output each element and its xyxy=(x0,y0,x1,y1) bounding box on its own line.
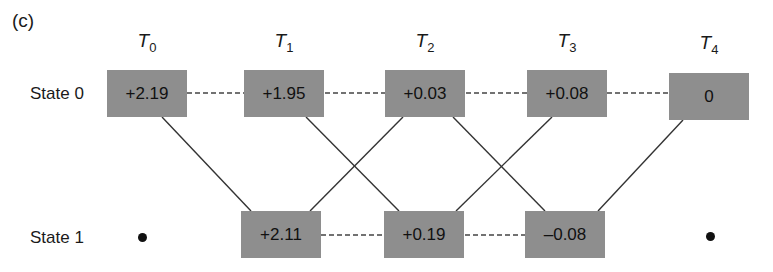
node-state1-t3: –0.08 xyxy=(525,211,605,258)
node-state0-t3: +0.08 xyxy=(527,70,607,117)
node-state0-t4: 0 xyxy=(669,73,749,120)
node-state1-t1: +2.11 xyxy=(241,211,321,258)
node-state1-t4-dot xyxy=(706,232,715,241)
node-state1-t0-dot xyxy=(138,233,147,242)
node-state0-t0: +2.19 xyxy=(107,70,187,117)
node-state0-t1: +1.95 xyxy=(244,70,324,117)
node-state0-t2: +0.03 xyxy=(385,70,465,117)
node-state1-t2: +0.19 xyxy=(384,211,464,258)
